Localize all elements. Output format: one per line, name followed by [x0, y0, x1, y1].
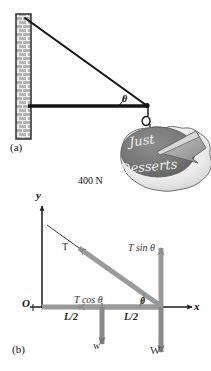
half-length-left-label: L/2 — [64, 312, 78, 322]
y-axis-label: y — [36, 190, 41, 201]
panel-b-label: (b) — [12, 344, 25, 355]
boom-weight-label: w — [93, 341, 100, 351]
sign-weight-label: W — [150, 345, 160, 356]
tension-vertical-component-label: T sin θ — [128, 243, 155, 253]
half-length-right-label: L/2 — [124, 312, 138, 322]
physics-figure: Just Desserts θ (a) 400 N — [0, 0, 211, 371]
x-axis-label: x — [194, 301, 200, 312]
panel-b-graphics — [0, 0, 211, 371]
angle-label-b: θ — [140, 296, 145, 306]
origin-label: O — [22, 298, 30, 309]
tension-label: T — [62, 242, 68, 252]
tension-horizontal-component-label: T cos θ — [74, 295, 103, 305]
